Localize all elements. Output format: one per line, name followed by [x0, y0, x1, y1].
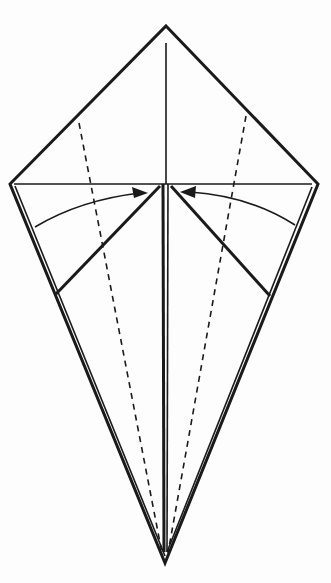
center-flap-right: [167, 184, 168, 552]
right-arrowhead-icon: [180, 186, 196, 198]
right-fold-arrow: [190, 192, 295, 225]
right-inner-diagonal: [171, 186, 270, 296]
left-arrowhead-icon: [132, 187, 148, 198]
left-lower-edge-inner: [15, 186, 165, 556]
left-inner-diagonal: [56, 186, 160, 294]
left-valley-fold: [79, 123, 162, 553]
origami-diagram: [0, 0, 331, 583]
right-lower-edge-inner: [167, 187, 312, 552]
center-flap-left: [163, 184, 164, 552]
right-valley-fold: [168, 116, 246, 553]
